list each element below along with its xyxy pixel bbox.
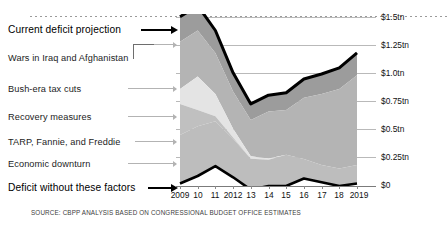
ylabel-0.5tn: $0.5tn (381, 124, 404, 134)
xlabel-2013: 13 (246, 190, 255, 200)
ylabel-1.5tn: $1.5tn (381, 12, 404, 22)
xlabel-2012: 2012 (224, 190, 243, 200)
xtick-2016 (304, 186, 305, 189)
ylabel-0.75tn: $0.75tn (381, 96, 409, 106)
stacked-area-svg (176, 14, 361, 186)
callout-current-deficit-projection: Current deficit projection (8, 24, 121, 35)
leader-arrow-economic-downturn (128, 163, 176, 164)
xlabel-2015: 15 (281, 190, 290, 200)
ylabel-0tn: $0 (381, 180, 390, 190)
ylabel-0.25tn: $0.25tn (381, 152, 409, 162)
xlabel-2010: 10 (193, 190, 202, 200)
xlabel-2014: 14 (264, 190, 273, 200)
xtick-2018 (339, 186, 340, 189)
source-note: SOURCE: CBPP ANALYSIS BASED ON CONGRESSI… (31, 209, 301, 216)
callout-tarp-fannie-and-freddie: TARP, Fannie, and Freddie (8, 137, 120, 147)
ylabel-1.25tn: $1.25tn (381, 40, 409, 50)
xtick-2013 (251, 186, 252, 189)
xtick-2010 (198, 186, 199, 189)
callout-economic-downturn: Economic downturn (8, 159, 90, 169)
callout-wars-in-iraq-and-afghanistan: Wars in Iraq and Afghanistan (8, 53, 128, 63)
xtick-2015 (286, 186, 287, 189)
xlabel-2019: 2019 (350, 190, 369, 200)
callout-deficit-without-these-factors: Deficit without these factors (8, 182, 135, 193)
xlabel-2011: 11 (211, 190, 220, 200)
leader-arrow-deficit-without-these-factors (148, 187, 176, 189)
leader-arrow-wars-in-iraq-and-afghanistan (154, 44, 176, 45)
xlabel-2016: 16 (299, 190, 308, 200)
callout-bush-era-tax-cuts: Bush-era tax cuts (8, 84, 81, 94)
leader-arrow-bush-era-tax-cuts (128, 88, 176, 89)
callout-label-group: Current deficit projection Wars in Iraq … (0, 0, 190, 200)
xtick-2017 (322, 186, 323, 189)
xtick-2019 (357, 186, 358, 189)
chart-figure: $1.5tn $1.25tn $1.0tn $0.75tn $0.5tn $0.… (0, 0, 447, 226)
callout-recovery-measures: Recovery measures (8, 112, 91, 122)
xtick-2014 (269, 186, 270, 189)
xlabel-2018: 18 (334, 190, 343, 200)
leader-arrow-recovery-measures (128, 116, 176, 117)
plot-area (176, 14, 361, 186)
leader-arrow-current-deficit-projection (141, 29, 176, 31)
x-axis-line (176, 186, 376, 187)
ylabel-1.0tn: $1.0tn (381, 68, 404, 78)
leader-arrow-tarp-fannie-and-freddie (135, 141, 176, 142)
xlabel-2017: 17 (317, 190, 326, 200)
leader-elbow-wars-in-iraq-and-afghanistan (133, 44, 155, 59)
xtick-2012 (233, 186, 234, 189)
xtick-2011 (215, 186, 216, 189)
